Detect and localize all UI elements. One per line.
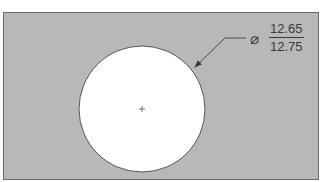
lower-limit-value: 12.75 [270, 39, 303, 54]
upper-limit-value: 12.65 [270, 21, 303, 36]
drawing-canvas: ⌀ 12.65 12.75 [0, 0, 324, 182]
diameter-symbol: ⌀ [250, 30, 259, 47]
